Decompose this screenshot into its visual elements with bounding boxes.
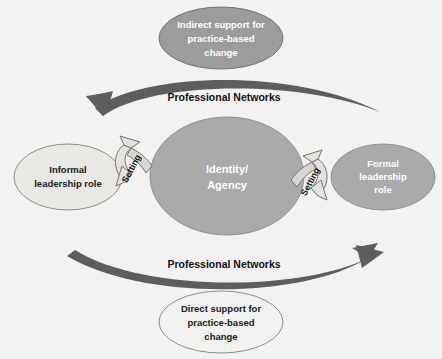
formal-leadership-line-2: leadership: [359, 171, 407, 182]
indirect-support-line-3: change: [204, 47, 237, 58]
professional-networks-bottom-label: Professional Networks: [167, 258, 280, 270]
formal-leadership-node: Formal leadership role: [331, 144, 435, 210]
informal-leadership-line-2: leadership role: [34, 178, 102, 189]
formal-leadership-line-1: Formal: [367, 158, 399, 169]
informal-leadership-line-1: Informal: [49, 164, 86, 175]
direct-support-node: Direct support for practice-based change: [159, 291, 283, 353]
direct-support-line-2: practice-based: [187, 317, 254, 328]
formal-leadership-line-3: role: [374, 184, 391, 195]
identity-agency-line-1: Identity/: [206, 163, 248, 175]
indirect-support-node: Indirect support for practice-based chan…: [159, 7, 283, 69]
indirect-support-line-2: practice-based: [187, 33, 254, 44]
indirect-support-line-1: Indirect support for: [177, 19, 265, 30]
direct-support-line-3: change: [204, 331, 237, 342]
identity-agency-ellipse: [150, 117, 304, 235]
diagram-svg: Professional Networks Professional Netwo…: [0, 0, 442, 359]
direct-support-line-1: Direct support for: [181, 303, 262, 314]
diagram-canvas: Professional Networks Professional Netwo…: [0, 0, 442, 359]
informal-leadership-node: Informal leadership role: [14, 144, 122, 210]
identity-agency-node: Identity/ Agency: [150, 117, 304, 235]
professional-networks-top-label: Professional Networks: [167, 91, 280, 103]
identity-agency-line-2: Agency: [207, 179, 248, 191]
